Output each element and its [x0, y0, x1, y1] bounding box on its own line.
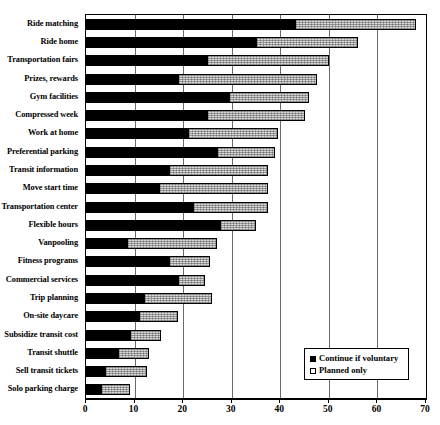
bar-segment-continue-if-voluntary [86, 238, 127, 249]
filled-square-icon [310, 356, 316, 362]
category-label: Solo parking charge [0, 384, 78, 393]
category-label: Flexible hours [0, 220, 78, 229]
bar-row [86, 74, 426, 85]
bar-segment-continue-if-voluntary [86, 330, 130, 341]
x-axis-tick [425, 398, 426, 403]
chart-legend: Continue if voluntary Planned only [304, 348, 409, 380]
bar-row [86, 128, 426, 139]
bar-row [86, 275, 426, 286]
legend-label: Continue if voluntary [319, 354, 398, 363]
open-square-icon [310, 368, 316, 374]
bar-row [86, 238, 426, 249]
bar-segment-continue-if-voluntary [86, 366, 105, 377]
bar-segment-planned-only [178, 275, 205, 286]
bar-segment-planned-only [193, 202, 268, 213]
bar-row [86, 92, 426, 103]
legend-item-planned-only: Planned only [310, 366, 404, 375]
bar-segment-planned-only [159, 183, 268, 194]
bar-row [86, 256, 426, 267]
bar-row [86, 330, 426, 341]
category-label: On-site daycare [0, 311, 78, 320]
bar-segment-planned-only [229, 92, 309, 103]
bar-row [86, 110, 426, 121]
legend-label: Planned only [319, 366, 367, 375]
x-axis-tick [279, 398, 280, 403]
bar-segment-planned-only [101, 384, 130, 395]
bar-segment-planned-only [118, 348, 150, 359]
bar-segment-planned-only [207, 110, 304, 121]
legend-item-continue-if-voluntary: Continue if voluntary [310, 354, 404, 363]
x-axis-tick [134, 398, 135, 403]
bar-segment-continue-if-voluntary [86, 348, 118, 359]
bar-segment-planned-only [169, 165, 269, 176]
bar-segment-continue-if-voluntary [86, 19, 295, 30]
bar-segment-continue-if-voluntary [86, 147, 217, 158]
bar-segment-planned-only [295, 19, 416, 30]
category-label: Prizes, rewards [0, 74, 78, 83]
bar-segment-continue-if-voluntary [86, 256, 169, 267]
category-label: Transit shuttle [0, 348, 78, 357]
bar-segment-continue-if-voluntary [86, 311, 139, 322]
bar-row [86, 37, 426, 48]
bar-segment-planned-only [105, 366, 146, 377]
x-axis-tick-label: 70 [410, 404, 440, 414]
category-label: Commercial services [0, 275, 78, 284]
bar-row [86, 147, 426, 158]
bar-segment-continue-if-voluntary [86, 202, 193, 213]
category-label: Vanpooling [0, 238, 78, 247]
bar-segment-continue-if-voluntary [86, 275, 178, 286]
bar-segment-continue-if-voluntary [86, 293, 144, 304]
bar-row [86, 19, 426, 30]
bar-row [86, 165, 426, 176]
x-axis-tick-label: 10 [119, 404, 149, 414]
plot-area [85, 14, 427, 400]
bar-row [86, 384, 426, 395]
bar-segment-planned-only [207, 55, 328, 66]
bar-segment-continue-if-voluntary [86, 92, 229, 103]
category-label: Transportation fairs [0, 55, 78, 64]
x-axis-tick [85, 398, 86, 403]
x-axis-tick-label: 40 [264, 404, 294, 414]
bar-segment-continue-if-voluntary [86, 183, 159, 194]
category-label: Transit information [0, 165, 78, 174]
bar-segment-continue-if-voluntary [86, 384, 101, 395]
bar-segment-continue-if-voluntary [86, 74, 178, 85]
category-label: Ride matching [0, 19, 78, 28]
category-label: Move start time [0, 183, 78, 192]
bar-segment-planned-only [188, 128, 278, 139]
bar-segment-continue-if-voluntary [86, 55, 207, 66]
bar-row [86, 311, 426, 322]
bar-segment-planned-only [139, 311, 178, 322]
x-axis-tick [182, 398, 183, 403]
bar-row [86, 220, 426, 231]
category-label: Transportation center [0, 202, 78, 211]
x-axis-line [85, 398, 426, 399]
bar-segment-planned-only [220, 220, 256, 231]
bar-segment-planned-only [217, 147, 275, 158]
bar-segment-continue-if-voluntary [86, 165, 169, 176]
category-label: Ride home [0, 37, 78, 46]
x-axis-tick [328, 398, 329, 403]
category-label: Fitness programs [0, 256, 78, 265]
x-axis-tick-label: 0 [70, 404, 100, 414]
bar-segment-planned-only [127, 238, 217, 249]
bar-segment-planned-only [144, 293, 212, 304]
x-axis-tick-label: 30 [216, 404, 246, 414]
bar-row [86, 55, 426, 66]
stacked-bar-chart: Ride matchingRide homeTransportation fai… [0, 0, 440, 425]
category-label: Gym facilities [0, 92, 78, 101]
bar-segment-continue-if-voluntary [86, 110, 207, 121]
x-axis-tick-label: 60 [361, 404, 391, 414]
category-label: Compressed week [0, 110, 78, 119]
category-label: Work at home [0, 128, 78, 137]
bar-segment-planned-only [169, 256, 210, 267]
x-axis-tick-label: 20 [167, 404, 197, 414]
bar-segment-planned-only [256, 37, 358, 48]
bar-row [86, 202, 426, 213]
x-axis-tick [376, 398, 377, 403]
x-axis-tick [231, 398, 232, 403]
bar-segment-continue-if-voluntary [86, 37, 256, 48]
category-label: Trip planning [0, 293, 78, 302]
x-axis-tick-label: 50 [313, 404, 343, 414]
bar-segment-continue-if-voluntary [86, 220, 220, 231]
